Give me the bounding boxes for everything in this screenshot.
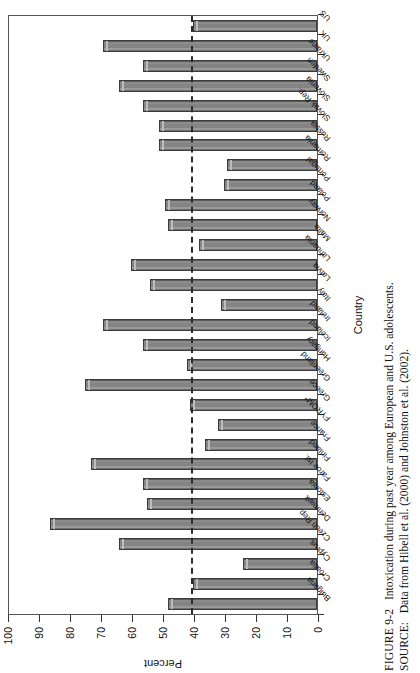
y-axis-tick-label: 60 [126,627,138,639]
y-axis-tick [287,615,288,622]
bar [119,80,317,92]
y-axis-title: Percent [8,657,318,671]
x-axis-tick [318,614,324,615]
caption-text: Intoxication during past year among Euro… [383,282,396,600]
bar-column [9,574,317,594]
bar [165,199,317,211]
bar [193,578,317,590]
bar-column [9,375,317,395]
y-axis-tick-label: 90 [33,627,45,639]
y-axis-tick-label: 40 [188,627,200,639]
bar [159,140,317,152]
bar [205,439,317,451]
bar-column [9,255,317,275]
y-axis-tick-label: 10 [281,627,293,639]
bar-column [9,275,317,295]
bar-column [9,155,317,175]
y-axis-tick [39,615,40,622]
y-axis: 0102030405060708090100 [8,615,318,625]
y-axis-title-label: Percent [144,658,182,670]
bar [103,40,317,52]
caption-line-2: SOURCE: Data from Hibell et al. (2000) a… [397,0,412,671]
rotated-figure-container: Percent 0102030405060708090100 BulgariaC… [0,0,378,673]
bar-column [9,474,317,494]
bar [187,359,317,371]
bar-column [9,96,317,116]
bar-column [9,455,317,475]
bars-container [9,16,317,614]
bar-column [9,136,317,156]
plot-area [8,15,318,615]
y-axis-tick-label: 70 [95,627,107,639]
bar-chart: Percent 0102030405060708090100 BulgariaC… [0,0,378,673]
source-label: SOURCE: [398,622,411,671]
bar [221,299,317,311]
bar-column [9,335,317,355]
y-axis-tick [8,615,9,622]
bar-column [9,235,317,255]
y-axis-tick-label: 30 [219,627,231,639]
y-axis-tick [163,615,164,622]
bar [168,598,317,610]
y-axis-tick-label: 80 [64,627,76,639]
bar [91,459,317,471]
bar [119,538,317,550]
y-axis-tick [101,615,102,622]
bar [131,259,317,271]
bar [143,60,317,72]
bar [103,319,317,331]
bar [224,179,317,191]
bar [159,120,317,132]
bar [143,478,317,490]
bar-column [9,76,317,96]
bar-column [9,116,317,136]
y-axis-tick [225,615,226,622]
bar-column [9,494,317,514]
bar-column [9,56,317,76]
bar [168,219,317,231]
y-axis-tick [70,615,71,622]
y-axis-tick [132,615,133,622]
bar-column [9,295,317,315]
y-axis-tick [194,615,195,622]
figure-page: Percent 0102030405060708090100 BulgariaC… [0,0,420,673]
rotated-caption-container: FIGURE 9-2 Intoxication during past year… [382,0,420,673]
bar [85,379,318,391]
y-axis-tick [256,615,257,622]
bar-column [9,16,317,36]
source-text: Data from Hibell et al. (2000) and Johns… [398,349,411,613]
bar-column [9,534,317,554]
y-axis-tick-label: 20 [250,627,262,639]
x-axis: BulgariaCroatiaCyprusCzech Rep.DenmarkEs… [318,15,376,615]
y-axis-tick-label: 100 [2,627,14,645]
bar-column [9,415,317,435]
bar-column [9,435,317,455]
x-axis-category-label: Italy [315,286,332,303]
bar [147,498,318,510]
bar-column [9,215,317,235]
bar-column [9,395,317,415]
bar-column [9,514,317,534]
bar [50,518,317,530]
bar-column [9,554,317,574]
y-axis-tick-label: 0 [312,627,324,633]
y-axis-tick [318,615,319,622]
x-axis-category-label: US [318,8,332,22]
bar [150,279,317,291]
bar [199,239,317,251]
bar [218,419,317,431]
bar-column [9,594,317,614]
bar-column [9,36,317,56]
bar-column [9,195,317,215]
y-axis-tick-label: 50 [157,627,169,639]
bar [143,100,317,112]
bar [143,339,317,351]
caption-line-1: FIGURE 9-2 Intoxication during past year… [382,0,397,671]
x-axis-category-label: UK [318,28,332,42]
bar [190,399,317,411]
bar [243,558,317,570]
figure-number: FIGURE 9-2 [383,609,396,671]
bar-column [9,355,317,375]
x-axis-title: Country [352,15,364,615]
figure-caption: FIGURE 9-2 Intoxication during past year… [382,0,413,673]
